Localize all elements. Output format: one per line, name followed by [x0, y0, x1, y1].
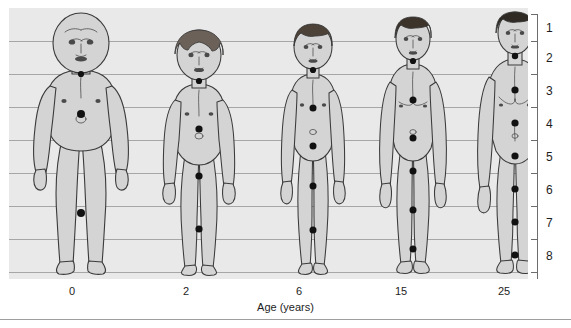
- figure-root: 1 2 3 4 5 6 7 8 0 2 6 15 25 Age (years): [0, 0, 571, 328]
- y-axis-label-2: 2: [546, 52, 553, 64]
- y-tick-1: [531, 41, 538, 42]
- y-axis-label-4: 4: [546, 118, 553, 130]
- y-tick-3: [531, 107, 538, 108]
- y-tick-4: [531, 140, 538, 141]
- body-figure-child-age-6: [267, 20, 359, 276]
- y-axis-label-1: 1: [546, 22, 553, 34]
- y-axis-label-8: 8: [546, 250, 553, 262]
- body-figure-teen-age-15: [367, 14, 459, 276]
- body-figure-child-age-2: [149, 24, 249, 276]
- y-tick-0: [531, 14, 538, 15]
- y-tick-7: [531, 239, 538, 240]
- x-axis-label-15: 15: [395, 285, 407, 297]
- y-tick-8: [531, 272, 538, 273]
- y-axis-label-7: 7: [546, 217, 553, 229]
- y-tick-6: [531, 206, 538, 207]
- y-axis-label-5: 5: [546, 151, 553, 163]
- footer-divider: [0, 319, 571, 320]
- x-axis-label-6: 6: [296, 285, 302, 297]
- x-axis-title: Age (years): [0, 301, 571, 313]
- y-tick-5: [531, 173, 538, 174]
- x-axis-label-25: 25: [498, 285, 510, 297]
- body-figure-adult-age-25: [469, 11, 528, 276]
- x-axis-label-0: 0: [69, 285, 75, 297]
- plot-area: [9, 8, 528, 279]
- y-axis-label-3: 3: [546, 85, 553, 97]
- body-figure-infant-age-0: [23, 12, 139, 276]
- x-axis-label-2: 2: [183, 285, 189, 297]
- plot-panel: [9, 8, 528, 279]
- y-tick-2: [531, 74, 538, 75]
- y-axis-label-6: 6: [546, 184, 553, 196]
